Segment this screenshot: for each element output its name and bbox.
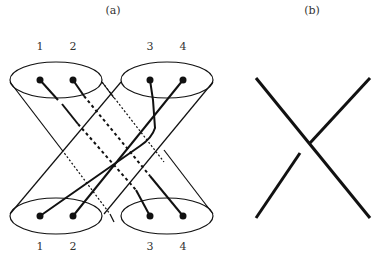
node-top-2 <box>70 77 77 84</box>
bottom-left-ellipse <box>10 198 102 234</box>
node-top-4 <box>180 77 187 84</box>
top-left-ellipse <box>10 62 102 98</box>
node-bottom-2 <box>70 213 77 220</box>
under-strand-bottom <box>256 153 300 218</box>
node-bottom-1 <box>37 213 44 220</box>
strands <box>40 80 183 216</box>
bottom-right-ellipse <box>121 198 213 234</box>
node-top-3 <box>147 77 154 84</box>
top-right-ellipse <box>121 62 213 98</box>
crossing-b <box>256 78 370 218</box>
node-top-1 <box>37 77 44 84</box>
node-bottom-4 <box>180 213 187 220</box>
braid-diagram <box>0 0 382 261</box>
tubes <box>10 62 213 234</box>
under-strand-top <box>310 78 370 143</box>
over-strand <box>256 78 370 218</box>
node-bottom-3 <box>147 213 154 220</box>
